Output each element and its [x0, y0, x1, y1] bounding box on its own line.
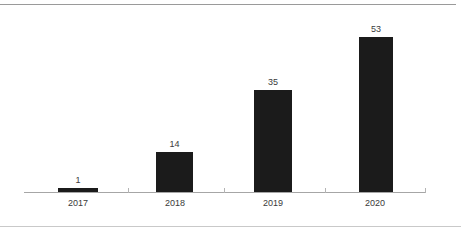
bar-2018 [156, 152, 193, 192]
x-axis-tick-2017 [128, 188, 129, 193]
plot-area: 1 14 35 53 2017 2018 2019 2020 [0, 0, 461, 232]
bar-value-label-2017: 1 [58, 175, 98, 186]
bar-value-label-2020: 53 [357, 24, 395, 35]
x-axis-tick-2020 [425, 188, 426, 193]
x-axis-label-2018: 2018 [155, 197, 195, 209]
x-axis-tick-2018 [224, 188, 225, 193]
bar-2017 [58, 188, 98, 192]
bar-chart-figure: 1 14 35 53 2017 2018 2019 2020 [0, 0, 461, 232]
bar-value-label-2018: 14 [155, 139, 194, 150]
x-axis-label-2017: 2017 [58, 197, 98, 209]
bar-2020 [359, 37, 393, 192]
bar-2019 [254, 90, 292, 192]
x-axis-label-2019: 2019 [253, 197, 293, 209]
bottom-divider-rule [0, 226, 461, 227]
x-axis-tick-2019 [325, 188, 326, 193]
x-axis-label-2020: 2020 [355, 197, 395, 209]
bar-value-label-2019: 35 [254, 77, 292, 88]
